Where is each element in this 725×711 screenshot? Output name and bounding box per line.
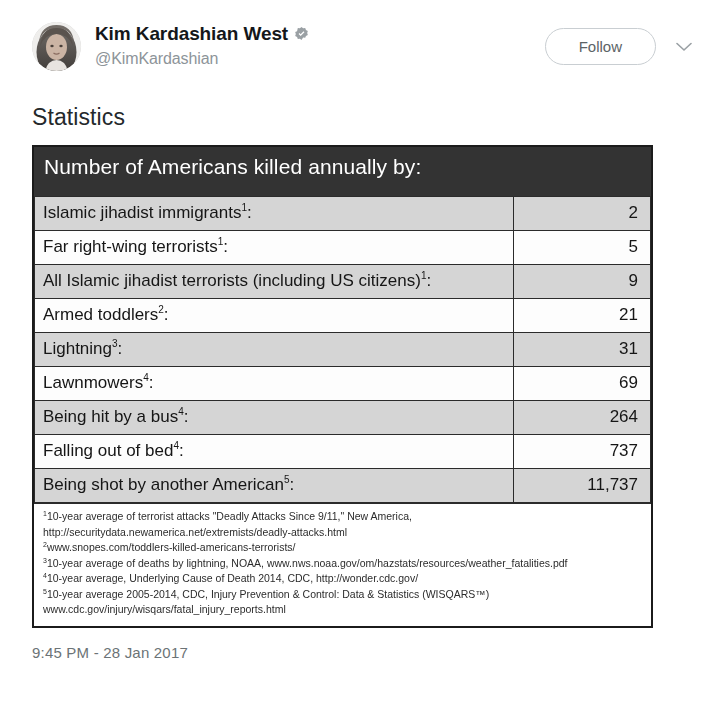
row-label: Falling out of bed4: [35,435,514,469]
footnote-item: 510-year average 2005-2014, CDC, Injury … [43,587,643,603]
row-label: Islamic jihadist immigrants1: [35,197,514,231]
verified-badge-icon [294,26,309,41]
footnote-item: http://securitydata.newamerica.net/extre… [43,525,643,541]
table-row: Lawnmowers4: 69 [35,367,651,401]
footnote-item: 410-year average, Underlying Cause of De… [43,571,643,587]
footnote-text: 10-year average of terrorist attacks "De… [47,510,412,522]
footnote-marker: 3 [112,338,118,349]
table-row: All Islamic jihadist terrorists (includi… [35,265,651,299]
tweet-header: Kim Kardashian West @KimKardashian Follo… [32,22,695,84]
row-value: 264 [514,401,651,435]
row-value: 31 [514,333,651,367]
follow-button[interactable]: Follow [545,28,656,65]
author-name-row: Kim Kardashian West [95,24,545,43]
row-label-text: All Islamic jihadist terrorists (includi… [43,271,421,290]
row-label: Being shot by another American5: [35,469,514,503]
table-row: Lightning3: 31 [35,333,651,367]
footnote-item: www.cdc.gov/injury/wisqars/fatal_injury_… [43,602,643,618]
row-label: Lawnmowers4: [35,367,514,401]
author-identity: Kim Kardashian West @KimKardashian [95,22,545,68]
footnote-text: www.cdc.gov/injury/wisqars/fatal_injury_… [43,603,286,615]
footnote-item: 110-year average of terrorist attacks "D… [43,509,643,525]
row-value: 9 [514,265,651,299]
footnote-item: 2www.snopes.com/toddlers-killed-american… [43,540,643,556]
tweet-text: Statistics [32,104,695,131]
statistics-table-image[interactable]: Number of Americans killed annually by: … [32,145,653,628]
footnote-marker: 1 [421,270,427,281]
row-label-text: Falling out of bed [43,441,173,460]
footnotes-block: 110-year average of terrorist attacks "D… [34,503,651,626]
footnote-marker: 1 [218,236,224,247]
author-display-name[interactable]: Kim Kardashian West [95,24,288,43]
row-value: 11,737 [514,469,651,503]
chevron-down-icon[interactable] [673,36,695,58]
footnote-item: 310-year average of deaths by lightning,… [43,556,643,572]
tweet-timestamp[interactable]: 9:45 PM - 28 Jan 2017 [32,644,695,661]
table-row: Far right-wing terrorists1: 5 [35,231,651,265]
row-label: Lightning3: [35,333,514,367]
footnote-text: 10-year average of deaths by lightning, … [47,557,568,569]
table-row: Falling out of bed4: 737 [35,435,651,469]
header-actions: Follow [545,22,695,65]
table-row: Being hit by a bus4: 264 [35,401,651,435]
row-label: All Islamic jihadist terrorists (includi… [35,265,514,299]
footnote-text: http://securitydata.newamerica.net/extre… [43,526,347,538]
footnote-text: www.snopes.com/toddlers-killed-americans… [47,541,296,553]
row-value: 69 [514,367,651,401]
row-label-text: Lawnmowers [43,373,143,392]
footnote-text: 10-year average, Underlying Cause of Dea… [47,572,418,584]
row-label-text: Islamic jihadist immigrants [43,203,241,222]
footnote-marker: 4 [178,406,184,417]
avatar[interactable] [32,22,81,71]
row-label: Being hit by a bus4: [35,401,514,435]
table-body: Islamic jihadist immigrants1: 2 Far righ… [35,197,651,503]
footnote-marker: 4 [143,372,149,383]
footnote-marker: 2 [158,304,164,315]
table-row: Islamic jihadist immigrants1: 2 [35,197,651,231]
table-title: Number of Americans killed annually by: [34,147,651,196]
footnote-text: 10-year average 2005-2014, CDC, Injury P… [47,588,489,600]
footnote-marker: 5 [284,474,290,485]
row-value: 21 [514,299,651,333]
author-handle[interactable]: @KimKardashian [95,50,545,68]
table-row: Being shot by another American5: 11,737 [35,469,651,503]
row-label-text: Lightning [43,339,112,358]
footnote-marker: 1 [241,202,247,213]
tweet-container: Kim Kardashian West @KimKardashian Follo… [0,0,725,711]
row-label-text: Being hit by a bus [43,407,178,426]
footnote-marker: 4 [173,440,179,451]
row-value: 2 [514,197,651,231]
row-value: 737 [514,435,651,469]
row-label-text: Far right-wing terrorists [43,237,218,256]
row-label-text: Being shot by another American [43,475,284,494]
table-row: Armed toddlers2: 21 [35,299,651,333]
row-value: 5 [514,231,651,265]
row-label: Armed toddlers2: [35,299,514,333]
row-label-text: Armed toddlers [43,305,158,324]
statistics-table: Islamic jihadist immigrants1: 2 Far righ… [34,196,651,503]
row-label: Far right-wing terrorists1: [35,231,514,265]
